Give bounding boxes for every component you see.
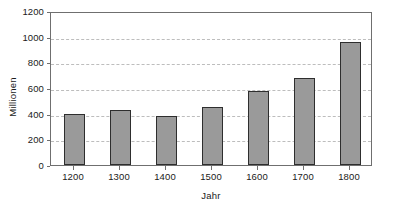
x-axis-tick-mark	[303, 166, 304, 170]
x-axis-tick-mark	[165, 166, 166, 170]
x-axis-tick-mark	[349, 166, 350, 170]
y-axis-tick-label: 600	[0, 84, 44, 94]
y-axis-tick-label: 0	[0, 161, 44, 171]
bar	[156, 116, 177, 165]
bar	[294, 78, 315, 165]
x-axis-tick-label: 1300	[108, 172, 130, 182]
x-axis-tick-mark	[211, 166, 212, 170]
x-axis-tick-label: 1200	[62, 172, 84, 182]
x-axis-tick-mark	[119, 166, 120, 170]
x-axis-tick-label: 1600	[246, 172, 268, 182]
bar	[248, 91, 269, 165]
x-axis-tick-mark	[257, 166, 258, 170]
x-axis-tick-label: 1500	[200, 172, 222, 182]
plot-area	[50, 12, 372, 166]
y-axis-tick-label: 1000	[0, 33, 44, 43]
y-axis-tick-label: 800	[0, 59, 44, 69]
bars-group	[51, 13, 371, 165]
y-axis-tick-label: 400	[0, 110, 44, 120]
x-axis-title: Jahr	[50, 190, 372, 201]
x-axis-tick-label: 1400	[154, 172, 176, 182]
bar	[64, 114, 85, 165]
x-axis-tick-mark	[73, 166, 74, 170]
bar	[340, 42, 361, 165]
bar-chart: Millionen 020040060080010001200 12001300…	[0, 0, 395, 212]
x-axis-tick-label: 1800	[338, 172, 360, 182]
bar	[202, 107, 223, 165]
y-axis-tick-label: 1200	[0, 7, 44, 17]
y-axis-tick-label: 200	[0, 136, 44, 146]
x-axis-tick-label: 1700	[292, 172, 314, 182]
bar	[110, 110, 131, 165]
